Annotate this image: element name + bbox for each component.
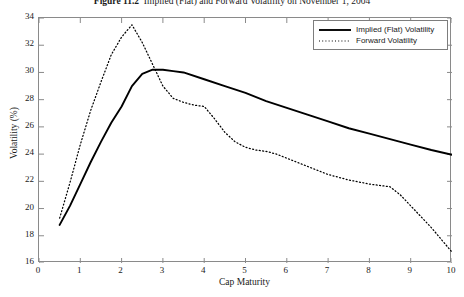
legend-line-solid-icon <box>318 25 352 35</box>
legend-item-implied-flat-volatility: Implied (Flat) Volatility <box>318 24 443 35</box>
y-tick-26: 26 <box>4 120 34 130</box>
x-tick-1: 1 <box>69 265 89 275</box>
data-series-group <box>60 25 452 252</box>
x-tick-0: 0 <box>28 265 48 275</box>
plot-area <box>38 17 451 262</box>
figure-number: Figure 11.2 <box>94 0 139 6</box>
x-tick-4: 4 <box>193 265 213 275</box>
x-tick-6: 6 <box>276 265 296 275</box>
series-line-1 <box>60 70 452 225</box>
legend-item-forward-volatility: Forward Volatility <box>318 35 443 46</box>
x-tick-10: 10 <box>441 265 461 275</box>
legend-line-dotted-icon <box>318 36 352 46</box>
x-tick-3: 3 <box>152 265 172 275</box>
y-tick-22: 22 <box>4 174 34 184</box>
figure-caption: Implied (Flat) and Forward Volatility on… <box>144 0 370 6</box>
figure-container: Figure 11.2 Implied (Flat) and Forward V… <box>0 0 464 297</box>
x-tick-7: 7 <box>317 265 337 275</box>
y-tick-18: 18 <box>4 229 34 239</box>
x-tick-9: 9 <box>400 265 420 275</box>
legend-label-forward-volatility: Forward Volatility <box>356 36 417 45</box>
y-axis-label: Volatility (%) <box>9 93 19 173</box>
y-tick-28: 28 <box>4 93 34 103</box>
legend: Implied (Flat) Volatility Forward Volati… <box>313 20 448 50</box>
x-axis-label: Cap Maturity <box>38 277 451 287</box>
series-line-2 <box>60 25 452 252</box>
x-tick-8: 8 <box>358 265 378 275</box>
y-tick-20: 20 <box>4 202 34 212</box>
figure-title: Figure 11.2 Implied (Flat) and Forward V… <box>0 0 464 7</box>
y-tick-34: 34 <box>4 11 34 21</box>
y-tick-32: 32 <box>4 38 34 48</box>
y-tick-24: 24 <box>4 147 34 157</box>
legend-label-implied-flat-volatility: Implied (Flat) Volatility <box>356 25 434 34</box>
y-tick-30: 30 <box>4 65 34 75</box>
x-tick-5: 5 <box>235 265 255 275</box>
plot-canvas <box>39 18 452 263</box>
x-tick-2: 2 <box>111 265 131 275</box>
